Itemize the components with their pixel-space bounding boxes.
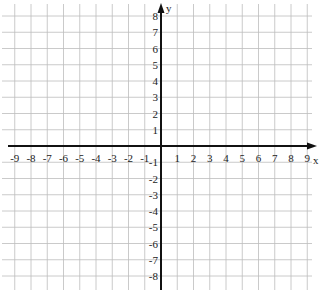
coordinate-plane: -9-8-7-6-5-4-3-2-1123456789 87654321-1-2… xyxy=(0,0,320,294)
y-tick-label: -7 xyxy=(149,254,159,266)
y-tick-label: -4 xyxy=(149,205,159,217)
x-tick-label: -3 xyxy=(108,152,118,164)
x-axis-arrow-icon xyxy=(307,143,317,150)
y-tick-label: -1 xyxy=(149,156,158,168)
x-tick-label: 8 xyxy=(288,152,294,164)
x-tick-label: -6 xyxy=(59,152,69,164)
x-tick-label: -7 xyxy=(43,152,53,164)
y-axis-arrow-icon xyxy=(158,3,165,13)
x-tick-label: -4 xyxy=(91,152,101,164)
y-tick-label: 1 xyxy=(153,124,159,136)
y-tick-label: 7 xyxy=(153,26,159,38)
x-tick-label: 3 xyxy=(207,152,213,164)
y-tick-label: 6 xyxy=(153,43,159,55)
y-tick-label: -6 xyxy=(149,238,159,250)
x-tick-label: -2 xyxy=(124,152,133,164)
y-tick-label: 2 xyxy=(153,108,159,120)
x-tick-label: 5 xyxy=(240,152,246,164)
x-tick-label: 7 xyxy=(272,152,278,164)
y-tick-label: 8 xyxy=(153,10,159,22)
x-tick-label: 2 xyxy=(191,152,197,164)
y-tick-label: 3 xyxy=(153,91,159,103)
x-tick-label: 4 xyxy=(223,152,229,164)
y-tick-label: -5 xyxy=(149,221,159,233)
y-tick-label: -2 xyxy=(149,173,158,185)
x-tick-label: -9 xyxy=(10,152,20,164)
x-axis-label: x xyxy=(313,154,319,166)
x-tick-label: -8 xyxy=(26,152,36,164)
y-tick-label: -8 xyxy=(149,270,159,282)
y-tick-label: 5 xyxy=(153,59,159,71)
x-tick-label: 6 xyxy=(256,152,262,164)
y-tick-label: -3 xyxy=(149,189,159,201)
x-tick-label: 1 xyxy=(175,152,181,164)
axes xyxy=(8,3,317,290)
y-tick-label: 4 xyxy=(153,75,159,87)
x-tick-label: -5 xyxy=(75,152,85,164)
y-axis-label: y xyxy=(166,2,172,14)
x-tick-label: 9 xyxy=(305,152,311,164)
